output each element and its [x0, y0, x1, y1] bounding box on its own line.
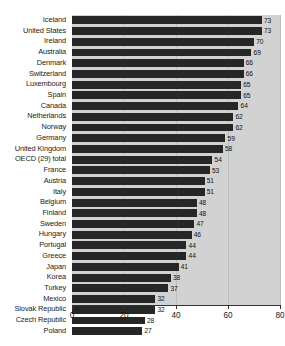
category-label: Switzerland	[0, 69, 69, 80]
category-label: Austria	[0, 176, 69, 187]
bar-row: 64	[72, 101, 280, 112]
bar	[72, 284, 168, 292]
x-axis	[72, 305, 280, 310]
bar-value-label: 65	[241, 80, 250, 90]
bar-value-label: 51	[205, 187, 214, 197]
bar	[72, 70, 244, 78]
bar	[72, 220, 194, 228]
bar	[72, 177, 205, 185]
gridline	[280, 15, 281, 305]
bar-row: 58	[72, 144, 280, 155]
bar-value-label: 73	[262, 26, 271, 36]
category-label: Mexico	[0, 294, 69, 305]
bar-value-label: 46	[192, 230, 201, 240]
bar-value-label: 48	[197, 198, 206, 208]
bar-row: 62	[72, 122, 280, 133]
x-tick	[124, 305, 125, 309]
category-label: Netherlands	[0, 111, 69, 122]
category-label: Czech Republic	[0, 315, 69, 326]
bar-value-label: 59	[225, 134, 234, 144]
category-label: Japan	[0, 262, 69, 273]
bar	[72, 113, 233, 121]
x-tick-label: 60	[223, 311, 232, 320]
bar-row: 38	[72, 272, 280, 283]
x-tick-labels: 020406080	[72, 311, 280, 325]
plot-area: 7373706966666565646262595854535151484847…	[72, 15, 280, 305]
bar-value-label: 44	[186, 251, 195, 261]
category-label: Finland	[0, 208, 69, 219]
category-label: Portugal	[0, 240, 69, 251]
bar-row: 44	[72, 251, 280, 262]
bar-row: 41	[72, 262, 280, 273]
x-tick	[280, 305, 281, 309]
bar-value-label: 44	[186, 241, 195, 251]
category-label: Korea	[0, 272, 69, 283]
bar-row: 37	[72, 283, 280, 294]
x-tick	[228, 305, 229, 309]
category-label: Hungary	[0, 229, 69, 240]
bar-row: 44	[72, 240, 280, 251]
bar	[72, 59, 244, 67]
bar-value-label: 73	[262, 16, 271, 26]
bar-chart: IcelandUnited StatesIrelandAustraliaDenm…	[0, 0, 285, 346]
bar-row: 69	[72, 47, 280, 58]
bar-row: 66	[72, 58, 280, 69]
bar-value-label: 51	[205, 176, 214, 186]
bar	[72, 263, 179, 271]
bar-row: 65	[72, 79, 280, 90]
category-label: Turkey	[0, 283, 69, 294]
bar-value-label: 62	[233, 112, 242, 122]
bar-value-label: 53	[210, 166, 219, 176]
bar	[72, 27, 262, 35]
category-label: Sweden	[0, 219, 69, 230]
bar-row: 48	[72, 197, 280, 208]
x-tick	[176, 305, 177, 309]
bar-value-label: 37	[168, 284, 177, 294]
category-label: Iceland	[0, 15, 69, 26]
bar-value-label: 64	[238, 101, 247, 111]
category-label: United States	[0, 26, 69, 37]
bar-row: 51	[72, 176, 280, 187]
bar	[72, 145, 223, 153]
category-label: Germany	[0, 133, 69, 144]
bar	[72, 241, 186, 249]
bar	[72, 199, 197, 207]
bar	[72, 252, 186, 260]
bar-row: 27	[72, 326, 280, 337]
bar-row: 47	[72, 219, 280, 230]
category-label: Greece	[0, 251, 69, 262]
bar-row: 59	[72, 133, 280, 144]
bar	[72, 134, 225, 142]
x-tick	[72, 305, 73, 309]
bar	[72, 295, 155, 303]
category-label: OECD (29) total	[0, 154, 69, 165]
chart-title	[42, 0, 242, 4]
x-tick-label: 0	[70, 311, 75, 320]
category-label: Canada	[0, 101, 69, 112]
bar	[72, 274, 171, 282]
bar-row: 62	[72, 111, 280, 122]
category-label: Belgium	[0, 197, 69, 208]
bar-value-label: 38	[171, 273, 180, 283]
category-label: Slovak Republic	[0, 304, 69, 315]
bar	[72, 209, 197, 217]
category-label: Poland	[0, 326, 69, 337]
bar-value-label: 58	[223, 144, 232, 154]
bar	[72, 102, 238, 110]
bar-row: 32	[72, 294, 280, 305]
bar-row: 54	[72, 154, 280, 165]
bar-row: 73	[72, 15, 280, 26]
bar	[72, 156, 212, 164]
bar-row: 70	[72, 36, 280, 47]
bar-value-label: 70	[254, 37, 263, 47]
bar-row: 51	[72, 187, 280, 198]
bar	[72, 124, 233, 132]
x-tick-label: 40	[171, 311, 180, 320]
bar	[72, 16, 262, 24]
bar-row: 65	[72, 90, 280, 101]
bar	[72, 327, 142, 335]
bar-row: 53	[72, 165, 280, 176]
bar-row: 46	[72, 229, 280, 240]
bar-value-label: 32	[155, 294, 164, 304]
category-label: Australia	[0, 47, 69, 58]
